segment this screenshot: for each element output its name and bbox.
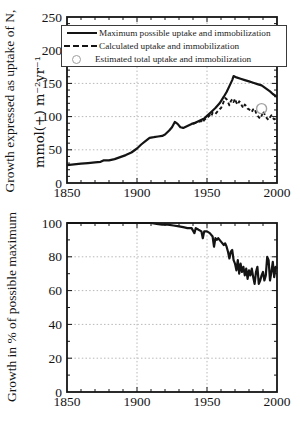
- x-tick-label: 1950: [194, 185, 221, 200]
- bottom-chart-plot: 0204060801001850190019502000: [0, 214, 300, 428]
- legend-label-estimated-uptake: Estimated total uptake and immobilizatio…: [95, 54, 251, 64]
- y-tick-label: 60: [49, 283, 63, 298]
- x-tick-label: 1950: [194, 394, 221, 409]
- legend-label-calculated-uptake: Calculated uptake and immobilization: [99, 41, 239, 51]
- y-tick-label: 40: [49, 317, 63, 332]
- data-line: [67, 223, 277, 284]
- y-tick-label: 50: [49, 142, 63, 157]
- y-tick-label: 100: [42, 216, 63, 231]
- legend-item-calculated-uptake: Calculated uptake and immobilization: [62, 40, 286, 53]
- circle-marker-sample-icon: [72, 55, 81, 64]
- figure-canvas: Growth expressed as uptake of N, mmol(+)…: [0, 0, 300, 428]
- plot-border: [67, 223, 277, 392]
- y-tick-label: 80: [49, 249, 63, 264]
- y-tick-label: 100: [42, 109, 63, 124]
- x-tick-label: 1900: [124, 394, 151, 409]
- dashed-line-sample-icon: [64, 45, 97, 47]
- x-tick-label: 1850: [54, 185, 81, 200]
- y-tick-label: 20: [49, 351, 63, 366]
- legend-item-estimated-uptake: Estimated total uptake and immobilizatio…: [62, 53, 286, 66]
- x-tick-label: 1900: [124, 185, 151, 200]
- legend-box: Maximum possible uptake and immobilizati…: [61, 25, 287, 67]
- solid-line-sample-icon: [67, 32, 97, 34]
- x-tick-label: 2000: [264, 394, 291, 409]
- calculated-uptake-line: [193, 98, 277, 124]
- y-tick-label: 150: [42, 76, 63, 91]
- data-line: [67, 76, 277, 165]
- legend-item-maximum-uptake: Maximum possible uptake and immobilizati…: [62, 26, 286, 39]
- x-tick-label: 1850: [54, 394, 81, 409]
- y-tick-label: 250: [42, 10, 63, 25]
- x-tick-label: 2000: [264, 185, 291, 200]
- estimated-uptake-marker: [257, 104, 267, 114]
- y-tick-label: 200: [42, 43, 63, 58]
- legend-label-maximum-uptake: Maximum possible uptake and immobilizati…: [99, 28, 270, 38]
